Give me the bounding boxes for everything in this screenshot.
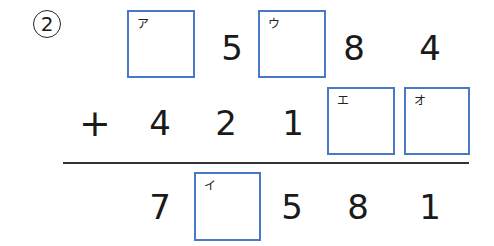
row3-digit-5: 5	[272, 187, 312, 227]
box-label-e: エ	[337, 91, 349, 108]
answer-box-a[interactable]: ア	[127, 10, 195, 78]
row3-digit-1: 1	[410, 187, 450, 227]
box-label-i: イ	[204, 176, 216, 193]
box-label-a: ア	[137, 14, 149, 31]
row1-digit-4: 4	[410, 28, 450, 68]
row1-digit-5: 5	[212, 28, 252, 68]
answer-box-o[interactable]: オ	[404, 87, 470, 155]
answer-box-e[interactable]: エ	[327, 87, 395, 155]
answer-box-i[interactable]: イ	[194, 172, 261, 241]
row3-digit-7: 7	[140, 187, 180, 227]
row2-digit-4: 4	[140, 103, 180, 143]
box-label-u: ウ	[268, 14, 280, 31]
row1-digit-8: 8	[334, 28, 374, 68]
row3-digit-8: 8	[338, 187, 378, 227]
sum-line	[63, 162, 469, 164]
plus-operator: +	[75, 103, 115, 143]
row2-digit-1: 1	[273, 103, 313, 143]
box-label-o: オ	[414, 91, 426, 108]
problem-number: 2	[33, 10, 61, 38]
row2-digit-2: 2	[206, 103, 246, 143]
answer-box-u[interactable]: ウ	[258, 10, 326, 78]
